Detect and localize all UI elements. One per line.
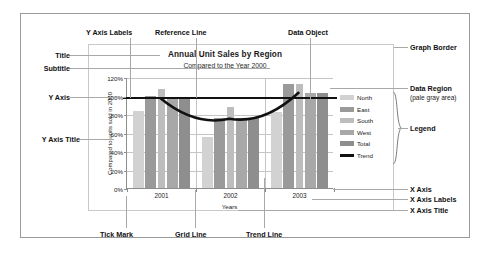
y-axis-tick-mark bbox=[124, 171, 127, 172]
legend-item: Total bbox=[340, 138, 390, 150]
data-object-bar bbox=[296, 84, 303, 188]
y-axis-label: 0% bbox=[114, 186, 123, 193]
leader-grid-line bbox=[195, 190, 196, 228]
data-object-bar bbox=[202, 137, 213, 188]
data-object-bar bbox=[133, 111, 144, 188]
data-object-bar bbox=[158, 89, 165, 188]
legend-line-swatch bbox=[340, 154, 354, 157]
x-axis-title: Years bbox=[126, 203, 333, 210]
legend-color-swatch bbox=[340, 130, 354, 135]
annotation-x-axis-title: X Axis Title bbox=[410, 206, 448, 215]
x-axis-label: 2002 bbox=[223, 192, 237, 199]
y-axis-label: 80% bbox=[111, 112, 123, 119]
data-object-bar bbox=[179, 99, 190, 188]
legend-color-swatch bbox=[340, 141, 354, 146]
plot-inner: 0%20%40%60%80%100%120%200120022003 bbox=[127, 78, 333, 188]
leader-x-axis-title bbox=[238, 210, 408, 211]
leader-title bbox=[70, 55, 160, 56]
leader-x-axis-labels bbox=[312, 199, 408, 200]
y-axis-label: 20% bbox=[111, 167, 123, 174]
data-object-bar bbox=[317, 93, 328, 188]
legend-label: North bbox=[357, 94, 372, 101]
y-axis-tick-mark bbox=[124, 134, 127, 135]
legend-label: East bbox=[357, 106, 369, 113]
leader-data-object bbox=[310, 38, 311, 130]
data-region: 0%20%40%60%80%100%120%200120022003 bbox=[126, 78, 333, 189]
legend-label: Trend bbox=[357, 152, 373, 159]
annotation-y-axis: Y Axis bbox=[20, 93, 70, 102]
screenshot-root: Annual Unit Sales by Region Compared to … bbox=[0, 0, 490, 265]
reference-line bbox=[123, 97, 337, 99]
grid-line bbox=[127, 78, 333, 79]
legend: NorthEastSouthWestTotalTrend bbox=[340, 92, 390, 161]
leader-subtitle bbox=[70, 68, 270, 69]
y-axis-label: 60% bbox=[111, 130, 123, 137]
annotation-y-axis-labels: Y Axis Labels bbox=[86, 28, 132, 37]
data-object-bar bbox=[167, 99, 178, 188]
annotation-reference-line: Reference Line bbox=[155, 28, 207, 37]
annotation-y-axis-title: Y Axis Title bbox=[14, 135, 80, 144]
data-object-bar bbox=[271, 112, 282, 188]
annotation-legend: Legend bbox=[410, 124, 436, 133]
leader-x-axis bbox=[333, 189, 408, 190]
data-object-bar bbox=[145, 96, 156, 188]
annotation-subtitle: Subtitle bbox=[20, 64, 70, 73]
data-object-bar bbox=[248, 118, 259, 188]
x-axis-label: 2003 bbox=[292, 192, 306, 199]
legend-label: South bbox=[357, 117, 373, 124]
annotation-tick-mark: Tick Mark bbox=[100, 230, 133, 239]
leader-trend-line bbox=[264, 178, 265, 228]
leader-data-region bbox=[330, 88, 408, 89]
annotation-title: Title bbox=[28, 51, 70, 60]
legend-item: West bbox=[340, 127, 390, 139]
data-object-bar bbox=[214, 118, 225, 188]
annotation-graph-border: Graph Border bbox=[410, 43, 457, 52]
data-object-bar bbox=[236, 118, 247, 188]
legend-item: North bbox=[340, 92, 390, 104]
y-axis-tick-mark bbox=[124, 115, 127, 116]
y-axis-label: 40% bbox=[111, 149, 123, 156]
x-axis-label: 2001 bbox=[154, 192, 168, 199]
legend-color-swatch bbox=[340, 118, 354, 123]
y-axis-tick-mark bbox=[124, 78, 127, 79]
legend-item: Trend bbox=[340, 150, 390, 162]
annotation-data-region-note: (pale gray area) bbox=[410, 94, 457, 101]
y-axis-tick-mark bbox=[124, 152, 127, 153]
leader-legend bbox=[398, 128, 408, 129]
legend-color-swatch bbox=[340, 107, 354, 112]
x-axis-tick-mark bbox=[127, 188, 128, 192]
annotation-x-axis: X Axis bbox=[410, 185, 432, 194]
annotation-grid-line: Grid Line bbox=[175, 230, 207, 239]
leader-y-axis-title bbox=[80, 139, 114, 140]
x-axis-tick-mark bbox=[196, 188, 197, 192]
legend-label: West bbox=[357, 129, 371, 136]
grid-line-vertical bbox=[265, 78, 266, 188]
legend-label: Total bbox=[357, 140, 370, 147]
annotation-data-object: Data Object bbox=[288, 28, 328, 37]
y-axis-label: 120% bbox=[107, 75, 123, 82]
legend-color-swatch bbox=[340, 95, 354, 100]
annotation-x-axis-labels: X Axis Labels bbox=[410, 195, 456, 204]
annotation-data-region: Data Region bbox=[410, 84, 452, 93]
leader-tick-mark bbox=[126, 196, 127, 228]
leader-graph-border bbox=[394, 47, 408, 48]
data-object-bar bbox=[283, 84, 294, 188]
data-object-bar bbox=[227, 107, 234, 188]
leader-y-axis bbox=[70, 97, 126, 98]
x-axis-tick-mark bbox=[265, 188, 266, 192]
legend-item: East bbox=[340, 104, 390, 116]
annotation-trend-line: Trend Line bbox=[246, 230, 282, 239]
legend-item: South bbox=[340, 115, 390, 127]
